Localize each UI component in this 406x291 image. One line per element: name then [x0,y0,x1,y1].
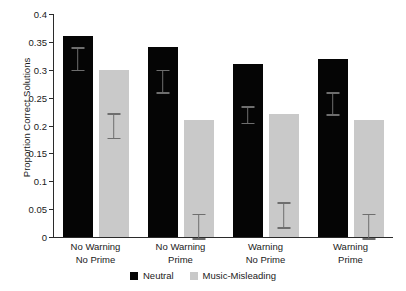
x-category-label: WarningNo Prime [223,241,308,266]
x-category-label-line: Warning [223,241,308,254]
legend-item: Neutral [130,270,174,281]
error-bar-cap-bottom [107,138,120,140]
error-bar-line [283,202,285,227]
error-bar-line [113,113,115,138]
bar-container [269,114,299,237]
error-bar-line [368,214,370,239]
x-category-label-line: No Prime [223,254,308,267]
y-tick-label: 0.4 [34,9,47,20]
error-bar-cap-top [241,106,254,108]
x-category-label-line: No Prime [53,254,138,267]
error-bar-cap-bottom [192,238,205,240]
error-bar-cap-top [156,70,169,72]
bar-group: No WarningPrime [138,14,223,237]
bar-container [63,36,93,237]
error-bar-line [162,70,164,92]
error-bar-cap-bottom [71,70,84,72]
error-bar-cap-bottom [241,123,254,125]
bar-group-bars [53,14,138,237]
error-bar-cap-top [326,92,339,94]
error-bar-cap-bottom [326,114,339,116]
error-bar-line [77,47,79,69]
y-axis-title: Proportion Correct Solutions [21,18,32,218]
legend-label: Neutral [143,270,174,281]
bar-container [99,70,129,237]
bar-chart-figure: Proportion Correct Solutions 00.050.10.1… [0,0,406,291]
error-bar-cap-top [277,202,290,204]
y-tick-mark [49,237,53,238]
x-category-label-line: Warning [308,241,393,254]
x-category-label-line: No Warning [138,241,223,254]
error-bar-cap-top [71,47,84,49]
y-tick-label: 0.15 [29,148,48,159]
y-tick-label: 0.2 [34,120,47,131]
x-axis-line [53,237,393,238]
y-tick-label: 0.1 [34,176,47,187]
bar-container [184,120,214,237]
error-bar-cap-top [107,113,120,115]
bar-neutral [233,64,263,237]
legend-swatch-icon [130,272,138,280]
bar-neutral [318,59,348,237]
bar-group: WarningNo Prime [223,14,308,237]
bar-container [318,59,348,237]
chart-legend: NeutralMusic-Misleading [0,270,406,281]
error-bar-cap-bottom [362,238,375,240]
error-bar-cap-top [192,214,205,216]
y-tick-label: 0 [42,232,47,243]
error-bar-line [332,92,334,114]
y-tick-label: 0.3 [34,64,47,75]
x-category-label: WarningPrime [308,241,393,266]
bar-container [148,47,178,237]
bar-group-bars [223,14,308,237]
legend-swatch-icon [190,272,198,280]
plot-area: 00.050.10.150.20.250.30.350.4 No Warning… [53,14,393,237]
x-category-label: No WarningNo Prime [53,241,138,266]
bar-music-misleading [99,70,129,237]
y-tick-label: 0.05 [29,204,48,215]
x-category-label-line: Prime [138,254,223,267]
error-bar-cap-bottom [277,227,290,229]
error-bar-cap-bottom [156,92,169,94]
bar-group: WarningPrime [308,14,393,237]
x-category-label: No WarningPrime [138,241,223,266]
y-tick-label: 0.35 [29,36,48,47]
bar-group: No WarningNo Prime [53,14,138,237]
bar-container [354,120,384,237]
bar-group-bars [308,14,393,237]
legend-item: Music-Misleading [190,270,276,281]
bar-container [233,64,263,237]
error-bar-line [198,214,200,239]
x-category-label-line: Prime [308,254,393,267]
y-tick-label: 0.25 [29,92,48,103]
error-bar-line [247,106,249,123]
error-bar-cap-top [362,214,375,216]
x-category-label-line: No Warning [53,241,138,254]
legend-label: Music-Misleading [203,270,276,281]
bar-group-bars [138,14,223,237]
